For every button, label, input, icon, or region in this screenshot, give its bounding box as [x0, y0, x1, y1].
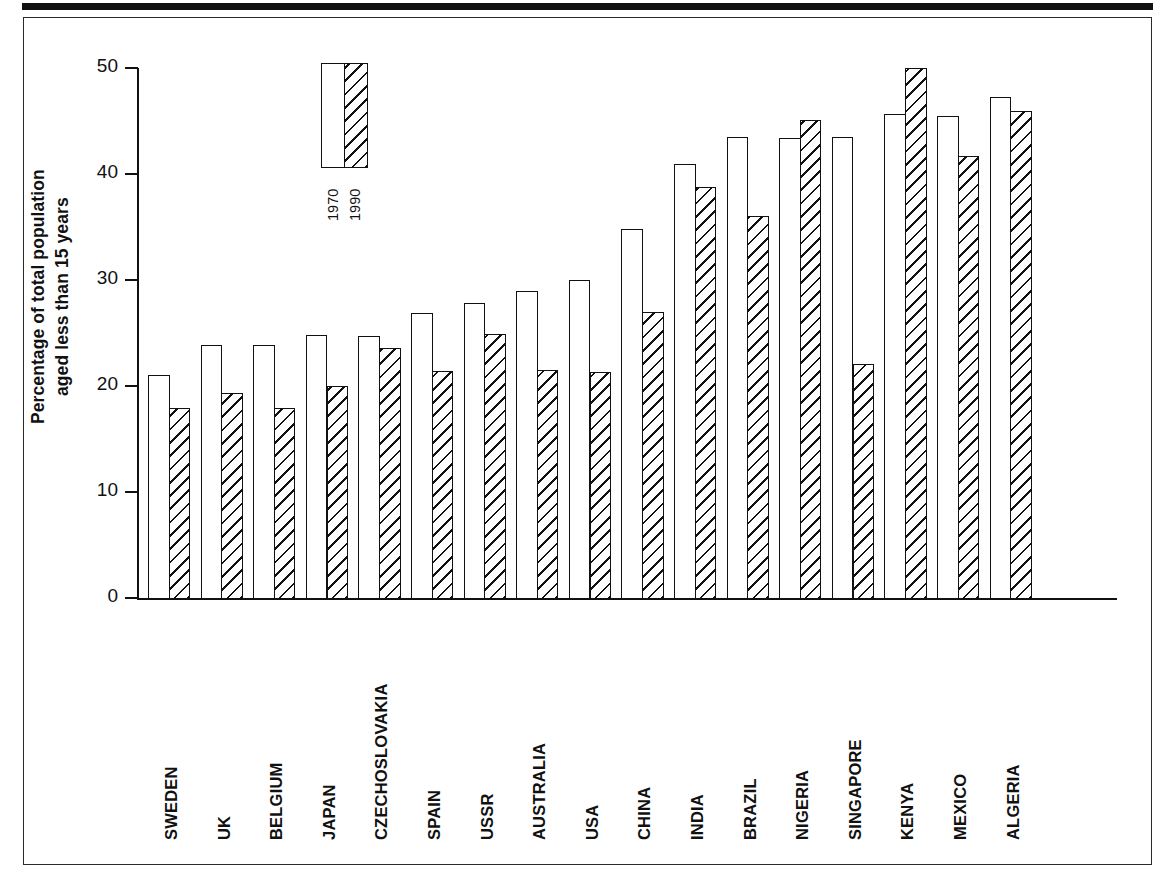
legend-label-1990: 1990 — [347, 189, 363, 221]
bar-belgium-1970 — [253, 345, 275, 599]
category-label-kenya: KENYA — [898, 783, 917, 840]
bar-sweden-1990 — [169, 408, 191, 599]
bar-singapore-1990 — [853, 364, 875, 599]
category-label-ussr: USSR — [478, 793, 497, 840]
bar-uk-1990 — [221, 393, 243, 599]
bar-japan-1970 — [306, 335, 328, 599]
category-label-belgium: BELGIUM — [267, 763, 286, 840]
bar-australia-1990 — [537, 370, 559, 599]
bar-singapore-1970 — [832, 137, 854, 599]
category-label-brazil: BRAZIL — [741, 778, 760, 840]
category-label-australia: AUSTRALIA — [530, 743, 549, 840]
figure-frame: 01020304050 Percentage of total populati… — [23, 17, 1152, 865]
legend-label-1970: 1970 — [325, 189, 341, 221]
category-label-mexico: MEXICO — [951, 774, 970, 840]
bar-kenya-1990 — [905, 68, 927, 599]
bar-algeria-1970 — [990, 97, 1012, 599]
category-label-usa: USA — [583, 805, 602, 840]
bar-sweden-1970 — [148, 375, 170, 599]
category-label-spain: SPAIN — [425, 790, 444, 840]
bar-spain-1970 — [411, 313, 433, 599]
category-label-algeria: ALGERIA — [1004, 764, 1023, 840]
chart-plot-area: 01020304050 Percentage of total populati… — [24, 18, 1153, 866]
bar-nigeria-1990 — [800, 120, 822, 599]
bar-china-1990 — [642, 312, 664, 599]
bar-belgium-1990 — [274, 408, 296, 599]
bar-czechoslovakia-1990 — [379, 348, 401, 599]
category-label-china: CHINA — [635, 787, 654, 840]
bar-india-1970 — [674, 164, 696, 599]
bar-usa-1990 — [590, 372, 612, 599]
bar-china-1970 — [621, 229, 643, 599]
bar-czechoslovakia-1970 — [358, 336, 380, 599]
category-label-czechoslovakia: CZECHOSLOVAKIA — [372, 684, 391, 841]
figure-page: 01020304050 Percentage of total populati… — [0, 0, 1175, 878]
bar-spain-1990 — [432, 371, 454, 599]
bar-india-1990 — [695, 187, 717, 599]
category-label-japan: JAPAN — [320, 784, 339, 840]
legend-swatch-1970 — [321, 63, 345, 168]
bar-japan-1990 — [327, 386, 349, 599]
bars-layer — [24, 18, 1153, 866]
bar-ussr-1970 — [464, 303, 486, 599]
bar-mexico-1990 — [958, 156, 980, 599]
bar-brazil-1990 — [747, 216, 769, 599]
bar-brazil-1970 — [727, 137, 749, 599]
legend-swatch-1990 — [344, 63, 368, 168]
bar-australia-1970 — [516, 291, 538, 599]
bar-uk-1970 — [201, 345, 223, 599]
legend-swatches — [321, 63, 369, 168]
category-label-sweden: SWEDEN — [162, 766, 181, 840]
bar-algeria-1990 — [1010, 111, 1032, 599]
top-rule-divider — [22, 3, 1153, 10]
bar-ussr-1990 — [484, 334, 506, 599]
bar-mexico-1970 — [937, 116, 959, 599]
category-label-singapore: SINGAPORE — [846, 739, 865, 840]
bar-nigeria-1970 — [779, 138, 801, 599]
chart-legend: 19701990 — [321, 63, 369, 168]
category-label-india: INDIA — [688, 794, 707, 840]
bar-kenya-1970 — [884, 114, 906, 599]
category-label-uk: UK — [215, 816, 234, 840]
category-label-nigeria: NIGERIA — [793, 770, 812, 840]
bar-usa-1970 — [569, 280, 591, 599]
